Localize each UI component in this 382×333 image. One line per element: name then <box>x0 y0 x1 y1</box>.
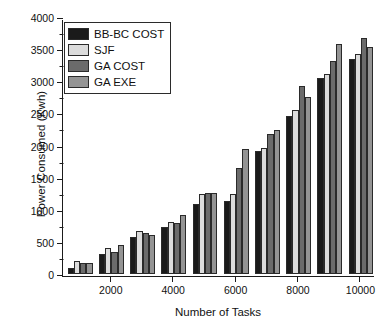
y-tick-label: 500 <box>36 237 54 250</box>
bar <box>211 193 217 275</box>
y-tick: 4000 <box>57 18 63 19</box>
x-tick: 8000 <box>297 276 298 282</box>
y-tick: 1000 <box>57 211 63 212</box>
y-tick: 3000 <box>57 82 63 83</box>
y-tick-minor <box>60 163 64 164</box>
y-tick-minor <box>60 66 64 67</box>
y-tick-label: 2000 <box>31 141 54 154</box>
x-tick: 6000 <box>235 276 236 282</box>
y-axis-title: Power Consumed (Kwh) <box>35 39 47 269</box>
bar-chart-figure: Power Consumed (Kwh) 0500100015002000250… <box>0 0 382 333</box>
y-tick-minor <box>60 227 64 228</box>
y-tick-label: 2500 <box>31 108 54 121</box>
y-tick-label: 1000 <box>31 205 54 218</box>
bar <box>367 47 373 275</box>
x-tick: 4000 <box>172 276 173 282</box>
y-tick: 2000 <box>57 147 63 148</box>
bar <box>305 97 311 275</box>
y-tick-label: 3000 <box>31 76 54 89</box>
legend-item[interactable]: SJF <box>68 42 164 58</box>
bar <box>118 245 124 275</box>
y-tick-label: 4000 <box>31 12 54 25</box>
x-tick: 10000 <box>359 276 360 282</box>
x-tick: 2000 <box>110 276 111 282</box>
x-tick-label: 10000 <box>346 284 375 296</box>
y-tick-label: 0 <box>48 269 54 282</box>
y-tick: 3500 <box>57 50 63 51</box>
y-tick-minor <box>60 130 64 131</box>
legend-item[interactable]: GA EXE <box>68 74 164 90</box>
y-tick-minor <box>60 259 64 260</box>
legend-label: GA EXE <box>94 76 136 89</box>
legend-swatch-icon <box>68 28 89 40</box>
bar <box>180 215 186 275</box>
legend-swatch-icon <box>68 76 89 88</box>
y-tick: 0 <box>57 275 63 276</box>
x-tick-label: 2000 <box>99 284 122 296</box>
legend-item[interactable]: GA COST <box>68 58 164 74</box>
y-tick-minor <box>60 195 64 196</box>
bar <box>336 44 342 275</box>
bar <box>274 130 280 274</box>
x-axis-title: Number of Tasks <box>62 306 374 318</box>
chart-legend: BB-BC COSTSJFGA COSTGA EXE <box>64 22 171 94</box>
x-tick-label: 6000 <box>224 284 247 296</box>
bar <box>149 235 155 275</box>
y-tick: 500 <box>57 243 63 244</box>
legend-label: SJF <box>94 44 114 57</box>
legend-swatch-icon <box>68 44 89 56</box>
legend-label: GA COST <box>94 60 145 73</box>
x-tick-label: 4000 <box>162 284 185 296</box>
y-tick-label: 1500 <box>31 173 54 186</box>
legend-swatch-icon <box>68 60 89 72</box>
bar <box>86 263 92 274</box>
y-tick-minor <box>60 34 64 35</box>
legend-label: BB-BC COST <box>94 28 164 41</box>
y-tick-label: 3500 <box>31 44 54 57</box>
legend-item[interactable]: BB-BC COST <box>68 26 164 42</box>
y-tick: 1500 <box>57 179 63 180</box>
y-tick: 2500 <box>57 114 63 115</box>
y-tick-minor <box>60 98 64 99</box>
bar <box>242 149 248 275</box>
x-tick-label: 8000 <box>286 284 309 296</box>
